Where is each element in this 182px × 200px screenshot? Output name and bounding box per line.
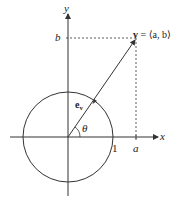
unit-vector-label: ev (75, 99, 83, 112)
x-axis-label: x (159, 130, 165, 142)
one-label: 1 (112, 142, 118, 154)
vector-v (68, 40, 135, 137)
vector-v-label: v = ⟨a, b⟩ (133, 29, 171, 40)
unit-vector-diagram: y x b a 1 θ ev v = ⟨a, b⟩ (0, 0, 182, 200)
theta-label: θ (82, 122, 88, 134)
y-axis-label: y (63, 2, 69, 14)
b-label: b (55, 31, 61, 43)
a-label: a (133, 142, 139, 154)
theta-arc (75, 127, 80, 137)
